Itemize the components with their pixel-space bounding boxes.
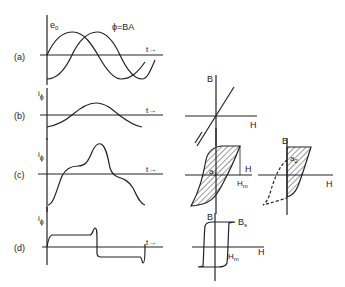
bh-d-H-label: H — [258, 247, 265, 257]
panel-d-time-label: t→ — [146, 238, 156, 247]
panel-d-waveform — [42, 207, 163, 265]
panel-d-i-phi-label: iϕ — [38, 214, 44, 226]
panel-d-label: (d) — [14, 243, 25, 253]
panel-a-waveforms — [40, 15, 163, 85]
bh-b-H-label: H — [250, 120, 257, 130]
panel-c-time-label: t→ — [146, 165, 156, 174]
panel-c-label: (c) — [14, 170, 25, 180]
panel-c-bh-loop2 — [258, 138, 333, 215]
panel-a-label: (a) — [14, 52, 25, 62]
bh-d-B-label: B — [207, 212, 213, 222]
panel-b-waveform — [40, 88, 163, 140]
panel-c-i-phi-label: iϕ — [38, 150, 44, 162]
panel-d-bh-square-loop — [192, 213, 264, 281]
bh-c2-B-label: B — [282, 136, 288, 146]
e0-label: e0 — [50, 20, 59, 31]
bh-c1-Hm-label: Hm — [237, 179, 248, 189]
panel-b-bh-linear — [185, 75, 257, 146]
bh-b-B-label: B — [207, 74, 213, 84]
panel-a-time-label: t→ — [146, 45, 156, 54]
dashed-loop-return — [263, 160, 287, 205]
bh-c1-upper-trace — [195, 132, 202, 143]
magnetization-waveform-diagram: (a) e0 ϕ=BA t→ (b) iϕ t→ B H (c) iϕ t→ a… — [0, 0, 345, 287]
bh-c1-H-label: H — [245, 164, 252, 174]
panel-b-time-label: t→ — [146, 106, 156, 115]
panel-c-bh-loop1 — [185, 128, 252, 214]
panel-c-waveform — [38, 138, 163, 212]
phi-equals-BA-label: ϕ=BA — [112, 22, 134, 32]
panel-b-label: (b) — [14, 111, 25, 121]
current-waveform-d — [47, 228, 145, 263]
diagram-canvas: (a) e0 ϕ=BA t→ (b) iϕ t→ B H (c) iϕ t→ a… — [0, 0, 345, 287]
bh-c2-H-label: H — [326, 179, 333, 189]
bh-d-Hm-label: Hm — [228, 252, 239, 262]
bh-d-Bs-label: Bs — [238, 217, 247, 228]
panel-b-i-phi-label: iϕ — [38, 89, 44, 101]
